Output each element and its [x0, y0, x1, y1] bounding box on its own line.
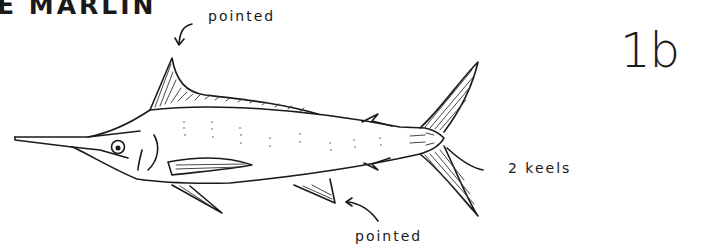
dorsal-arrow-icon	[175, 24, 192, 45]
anal-arrow-icon	[346, 198, 378, 221]
marlin-illustration	[0, 0, 709, 252]
keel-pointer-line	[447, 148, 483, 170]
caudal-fin-upper	[420, 62, 478, 132]
dorsal-fin	[150, 58, 318, 114]
bill	[15, 131, 140, 137]
body-outline	[72, 107, 444, 183]
caudal-fin-lower	[420, 146, 478, 216]
